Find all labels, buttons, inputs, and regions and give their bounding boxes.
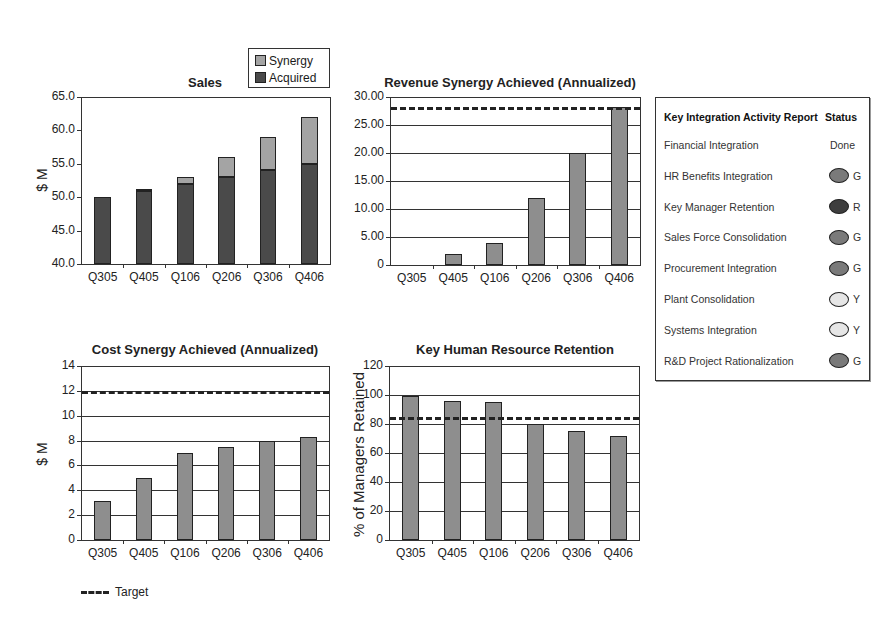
gridline	[391, 153, 640, 154]
x-tick-label: Q106	[472, 546, 516, 560]
bar-acquired-q305	[94, 197, 111, 264]
activity-label: Key Manager Retention	[664, 201, 817, 213]
status-indicator-icon	[829, 353, 849, 368]
target-legend: Target	[81, 585, 148, 599]
gridline	[390, 511, 639, 512]
x-tick-label: Q406	[597, 271, 641, 285]
gridline	[390, 395, 639, 396]
gridline	[391, 181, 640, 182]
y-tick-label: 14	[35, 358, 75, 372]
target-line	[82, 391, 329, 394]
bar-q406	[610, 436, 627, 540]
status-value: G	[817, 230, 863, 245]
target-line	[390, 417, 639, 420]
y-tick-label: 80	[343, 416, 383, 430]
y-tick-mark	[77, 515, 81, 516]
status-value: Y	[817, 292, 863, 307]
status-row: R&D Project RationalizationG	[664, 351, 863, 371]
x-tick-mark	[247, 264, 248, 268]
y-tick-mark	[386, 209, 390, 210]
x-tick-label: Q106	[163, 546, 207, 560]
x-tick-label: Q306	[556, 271, 600, 285]
y-tick-mark	[77, 416, 81, 417]
x-tick-label: Q405	[431, 271, 475, 285]
y-tick-label: 4	[35, 482, 75, 496]
y-tick-label: 100	[343, 387, 383, 401]
bar-q206	[528, 198, 545, 265]
status-indicator-icon	[829, 322, 849, 337]
y-tick-mark	[77, 465, 81, 466]
y-tick-mark	[385, 395, 389, 396]
x-tick-mark	[432, 540, 433, 544]
bar-synergy-q106	[177, 177, 194, 184]
status-letter: G	[853, 262, 863, 274]
status-panel-title: Key Integration Activity Report	[664, 111, 825, 123]
status-indicator-icon	[829, 168, 849, 183]
y-tick-mark	[77, 231, 81, 232]
bar-acquired-q306	[260, 170, 277, 264]
bar-q206	[527, 424, 544, 540]
legend-item-acquired: Acquired	[255, 69, 323, 86]
activity-label: Sales Force Consolidation	[664, 231, 817, 243]
y-tick-label: 55.0	[35, 156, 75, 170]
bar-q206	[218, 447, 234, 540]
x-tick-mark	[289, 264, 290, 268]
y-tick-label: 40.0	[35, 256, 75, 270]
y-tick-label: 50.0	[35, 189, 75, 203]
bar-acquired-q406	[301, 164, 318, 264]
x-tick-label: Q305	[81, 546, 125, 560]
y-tick-mark	[77, 366, 81, 367]
activity-label: R&D Project Rationalization	[664, 355, 817, 367]
x-tick-label: Q405	[122, 546, 166, 560]
y-tick-label: 10.00	[344, 201, 384, 215]
x-tick-mark	[123, 540, 124, 544]
x-tick-label: Q106	[473, 271, 517, 285]
status-indicator-icon	[829, 199, 849, 214]
bar-q406	[611, 107, 628, 265]
gridline	[390, 424, 639, 425]
bar-q306	[259, 441, 275, 540]
integration-status-panel: Key Integration Activity Report Status F…	[655, 97, 870, 381]
y-tick-mark	[385, 511, 389, 512]
x-tick-mark	[288, 540, 289, 544]
legend-synergy-label: Synergy	[269, 54, 313, 68]
status-letter: G	[853, 170, 863, 182]
status-row: HR Benefits IntegrationG	[664, 166, 863, 186]
status-row: Sales Force ConsolidationG	[664, 227, 863, 247]
x-tick-mark	[557, 265, 558, 269]
y-tick-mark	[386, 125, 390, 126]
activity-label: HR Benefits Integration	[664, 170, 817, 182]
status-value: Done	[817, 139, 863, 151]
status-indicator-icon	[829, 292, 849, 307]
status-indicator-icon	[829, 230, 849, 245]
y-tick-mark	[386, 153, 390, 154]
bar-q405	[444, 401, 461, 540]
gridline	[82, 490, 329, 491]
status-row: Key Manager RetentionR	[664, 197, 863, 217]
x-tick-label: Q406	[287, 270, 331, 284]
x-tick-label: Q206	[513, 546, 557, 560]
bar-q306	[568, 431, 585, 540]
x-tick-mark	[247, 540, 248, 544]
y-tick-mark	[385, 366, 389, 367]
y-tick-label: 10	[35, 408, 75, 422]
y-tick-mark	[385, 453, 389, 454]
x-tick-label: Q406	[596, 546, 640, 560]
gridline	[82, 515, 329, 516]
x-tick-label: Q306	[555, 546, 599, 560]
status-row: Systems IntegrationY	[664, 320, 863, 340]
y-tick-mark	[385, 540, 389, 541]
activity-label: Financial Integration	[664, 139, 817, 151]
status-indicator-icon	[829, 261, 849, 276]
y-tick-mark	[386, 97, 390, 98]
gridline	[391, 125, 640, 126]
bar-q106	[485, 402, 502, 540]
y-tick-mark	[77, 441, 81, 442]
retention-plot-area	[389, 366, 640, 541]
y-tick-mark	[77, 391, 81, 392]
y-tick-mark	[77, 540, 81, 541]
gridline	[391, 237, 640, 238]
x-tick-mark	[516, 265, 517, 269]
x-tick-label: Q405	[122, 270, 166, 284]
y-tick-label: 12	[35, 383, 75, 397]
